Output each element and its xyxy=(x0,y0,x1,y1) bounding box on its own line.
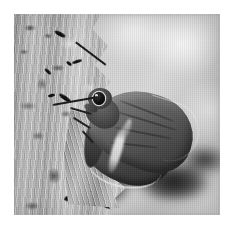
photo-frame: Grayscale macro photograph of a skipper … xyxy=(0,0,234,230)
butterfly xyxy=(14,14,220,215)
upper-antenna-club xyxy=(66,61,73,67)
lower-antenna-club xyxy=(48,93,56,98)
upper-antenna xyxy=(75,41,106,65)
photograph xyxy=(14,14,220,215)
